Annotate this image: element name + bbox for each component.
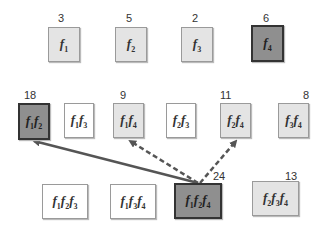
itemset-box-f1f3f4: f1f3f4	[110, 184, 156, 219]
itemset-box-f2f4: f2f4	[220, 103, 251, 138]
feature-label: f4	[137, 193, 145, 211]
itemset-box-f1f2: f1f2	[18, 103, 50, 140]
itemset-box-f4: f4	[251, 25, 284, 62]
feature-label: f1	[52, 193, 60, 211]
feature-label: f4	[294, 112, 302, 130]
feature-label: f1	[71, 112, 79, 130]
itemset-box-f2f3f4: f2f3f4	[252, 181, 299, 216]
feature-label: f4	[236, 112, 244, 130]
itemset-box-f1f4: f1f4	[113, 103, 144, 138]
support-count: 13	[285, 170, 297, 182]
arrow-f1f2f4-to-f1f2	[34, 141, 198, 183]
support-count: 9	[120, 89, 126, 101]
support-count: 18	[24, 89, 36, 101]
feature-label: f2	[194, 192, 202, 210]
support-count: 8	[303, 89, 309, 101]
feature-label: f1	[120, 193, 128, 211]
feature-label: f3	[79, 112, 87, 130]
support-count: 24	[213, 170, 225, 182]
feature-label: f1	[60, 36, 68, 54]
feature-label: f1	[26, 113, 34, 131]
arrow-f1f2f4-to-f1f4	[130, 141, 198, 183]
itemset-box-f1f3: f1f3	[64, 103, 94, 138]
itemset-box-f2f3: f2f3	[166, 103, 196, 138]
feature-label: f2	[61, 193, 69, 211]
feature-label: f4	[263, 35, 271, 53]
itemset-box-f2: f2	[115, 27, 147, 62]
feature-label: f4	[129, 112, 137, 130]
itemset-box-f1f2f3: f1f2f3	[42, 184, 88, 219]
feature-label: f4	[202, 192, 210, 210]
itemset-box-f1f2f4: f1f2f4	[174, 183, 222, 219]
support-count: 11	[220, 89, 231, 101]
feature-label: f2	[227, 112, 235, 130]
feature-label: f4	[280, 190, 288, 208]
itemset-box-f1: f1	[48, 27, 80, 62]
feature-label: f2	[127, 36, 135, 54]
feature-label: f1	[185, 192, 193, 210]
itemset-box-f3: f3	[181, 27, 213, 62]
support-count: 2	[192, 12, 198, 24]
feature-label: f1	[120, 112, 128, 130]
feature-label: f3	[69, 193, 77, 211]
feature-label: f3	[285, 112, 293, 130]
feature-label: f3	[129, 193, 137, 211]
support-count: 5	[126, 12, 132, 24]
feature-label: f2	[173, 112, 181, 130]
support-count: 6	[263, 12, 269, 24]
feature-label: f2	[263, 190, 271, 208]
feature-label: f3	[271, 190, 279, 208]
feature-label: f2	[34, 113, 42, 131]
feature-label: f3	[181, 112, 189, 130]
feature-label: f3	[193, 36, 201, 54]
support-count: 3	[58, 12, 64, 24]
itemset-box-f3f4: f3f4	[278, 103, 309, 138]
